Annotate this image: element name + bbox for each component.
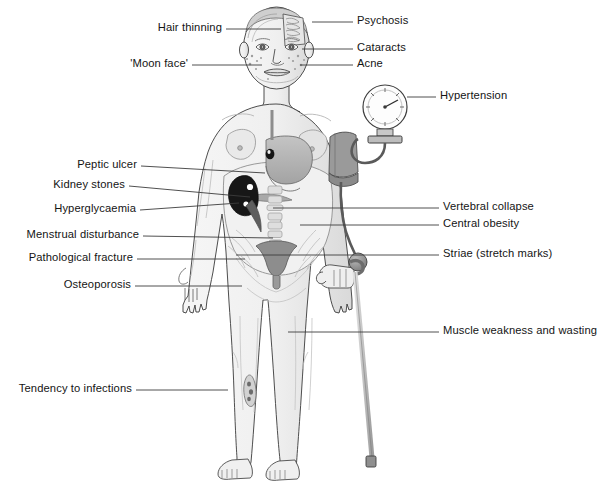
label-hypertension: Hypertension xyxy=(440,89,507,101)
brain-cutaway xyxy=(283,14,305,46)
gauge-base xyxy=(368,136,402,143)
feet xyxy=(218,459,299,480)
left-ear xyxy=(240,42,249,58)
eye-right xyxy=(285,44,298,50)
label-tendency-to-infections: Tendency to infections xyxy=(0,382,132,394)
walking-cane xyxy=(350,261,376,467)
label-psychosis: Psychosis xyxy=(357,14,408,26)
label-moon-face: 'Moon face' xyxy=(0,57,188,69)
right-foot xyxy=(266,460,299,480)
cane-tip xyxy=(366,456,376,467)
clinical-features-figure: Hair thinning 'Moon face' Peptic ulcer K… xyxy=(0,0,602,496)
peptic-ulcer-lesion xyxy=(266,149,275,159)
label-central-obesity: Central obesity xyxy=(443,217,519,229)
label-osteoporosis: Osteoporosis xyxy=(0,278,131,290)
right-ear xyxy=(305,42,314,58)
label-acne: Acne xyxy=(357,57,383,69)
label-kidney-stones: Kidney stones xyxy=(0,178,125,190)
label-pathological-fracture: Pathological fracture xyxy=(0,251,133,263)
label-hyperglycaemia: Hyperglycaemia xyxy=(0,202,136,214)
gauge-stem xyxy=(377,129,393,136)
label-striae: Striae (stretch marks) xyxy=(443,247,552,259)
kidney-stone-1 xyxy=(247,184,253,190)
label-hair-thinning: Hair thinning xyxy=(0,21,222,33)
label-menstrual-disturbance: Menstrual disturbance xyxy=(0,228,139,240)
right-hand-gripping-cane xyxy=(316,265,354,288)
leg-skin-infection xyxy=(244,375,256,407)
label-cataracts: Cataracts xyxy=(357,41,406,53)
sphygmomanometer-gauge xyxy=(363,85,407,143)
left-foot xyxy=(218,459,252,479)
label-vertebral-collapse: Vertebral collapse xyxy=(443,200,534,212)
label-peptic-ulcer: Peptic ulcer xyxy=(0,158,137,170)
eye-left xyxy=(256,44,269,50)
label-muscle-weakness: Muscle weakness and wasting xyxy=(443,324,597,336)
